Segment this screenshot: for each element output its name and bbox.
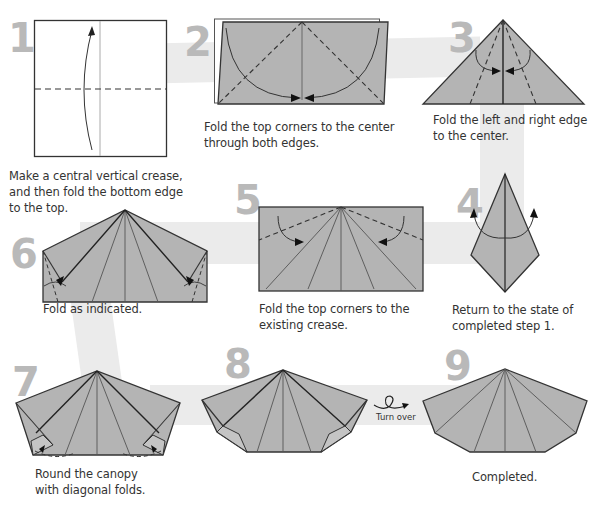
step-number-6: 6: [10, 234, 38, 274]
step-1-diagram: [34, 20, 169, 160]
step-5-diagram: [258, 206, 426, 294]
step-4-caption: Return to the state of completed step 1.: [452, 302, 573, 334]
step-7-caption: Round the canopy with diagonal folds.: [35, 466, 145, 498]
step-number-2: 2: [184, 22, 212, 62]
step-3-caption: Fold the left and right edge to the cent…: [433, 112, 587, 144]
step-4-diagram: [468, 172, 548, 297]
step-6-caption: Fold as indicated.: [43, 301, 142, 317]
step-2-diagram: [214, 18, 389, 108]
turn-over-loop-arrow-icon: [372, 394, 412, 414]
step-9-caption: Completed.: [472, 469, 537, 485]
step-8-diagram: [201, 368, 369, 454]
step-3-diagram: [422, 18, 588, 106]
step-7-diagram: [15, 369, 183, 457]
unfold-arrow-right-icon: [530, 208, 538, 218]
step-2-caption: Fold the top corners to the center throu…: [204, 119, 394, 151]
unfold-arrow-left-icon: [470, 208, 477, 218]
step-5-caption: Fold the top corners to the existing cre…: [259, 301, 409, 333]
step-6-diagram: [42, 208, 210, 304]
turn-over-label: Turn over: [376, 412, 416, 422]
step-number-1: 1: [8, 18, 36, 58]
step-9-diagram: [422, 367, 588, 455]
